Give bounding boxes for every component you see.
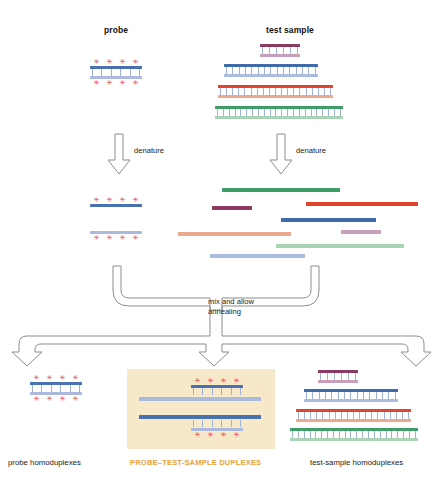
- denature-label-left: denature: [134, 146, 164, 156]
- label-marker-icon: ✳: [195, 378, 201, 384]
- label-marker-icon: ✳: [195, 432, 201, 438]
- base-pair-rungs: [298, 412, 409, 419]
- probe-duplex: ✳✳✳✳✳✳✳✳: [90, 59, 142, 87]
- label-marker-icon: ✳: [120, 235, 126, 241]
- label-marker-icon: ✳: [107, 80, 113, 86]
- label-marker-icon: ✳: [60, 375, 66, 381]
- label-marker-icon: ✳: [133, 80, 139, 86]
- probe-column-heading: probe: [76, 25, 156, 35]
- label-marker-icon: ✳: [47, 375, 53, 381]
- label-marker-icon: ✳: [107, 235, 113, 241]
- label-marker-icon: ✳: [47, 396, 53, 402]
- test-sample-column-heading: test sample: [235, 25, 345, 35]
- mix-label-line1: mix and allow: [208, 297, 254, 306]
- blue-bot-single: [210, 254, 305, 258]
- base-pair-rungs: [193, 388, 241, 395]
- label-marker-icon: ✳: [73, 375, 79, 381]
- bottom-strand: [260, 54, 300, 57]
- single-strand: [90, 204, 142, 207]
- label-marker-icon: ✳: [94, 197, 100, 203]
- bottom-strand: [290, 438, 418, 441]
- red-top-single: [306, 202, 418, 206]
- label-marker-icon: ✳: [120, 59, 126, 65]
- label-marker-icon: ✳: [208, 432, 214, 438]
- label-marker-row: ✳✳✳✳: [30, 396, 82, 402]
- base-pair-rungs: [217, 109, 341, 116]
- denature-arrow-left: [106, 133, 132, 176]
- label-marker-icon: ✳: [133, 235, 139, 241]
- purple-homoduplex: [318, 370, 358, 384]
- hetero-duplex-upper: ✳✳✳✳: [139, 378, 261, 402]
- denature-label-right: denature: [296, 146, 326, 156]
- test-sample-strand: [139, 397, 261, 401]
- bottom-strand: [318, 380, 358, 383]
- label-marker-icon: ✳: [234, 432, 240, 438]
- mix-label-line2: annealing: [208, 307, 241, 316]
- red-duplex: [218, 85, 333, 99]
- probe-bottom-single-strand: ✳✳✳✳: [90, 231, 142, 242]
- hetero-duplex-lower: ✳✳✳✳: [139, 415, 261, 441]
- label-marker-icon: ✳: [34, 375, 40, 381]
- label-marker-icon: ✳: [221, 432, 227, 438]
- base-pair-rungs: [262, 47, 298, 54]
- label-marker-row: ✳✳✳✳: [90, 197, 142, 203]
- label-marker-icon: ✳: [94, 235, 100, 241]
- probe-test-sample-duplexes-label: PROBE–TEST-SAMPLE DUPLEXES: [130, 458, 261, 467]
- label-marker-row: ✳✳✳✳: [191, 378, 243, 384]
- label-marker-icon: ✳: [208, 378, 214, 384]
- base-pair-rungs: [220, 88, 331, 95]
- label-marker-row: ✳✳✳✳: [30, 375, 82, 381]
- green-duplex: [215, 106, 343, 120]
- label-marker-icon: ✳: [94, 80, 100, 86]
- bottom-strand: [224, 74, 318, 77]
- green-homoduplex: [290, 428, 418, 442]
- red-bot-single: [178, 232, 291, 236]
- probe-top-single-strand: ✳✳✳✳: [90, 197, 142, 207]
- base-pair-rungs: [92, 69, 140, 76]
- base-pair-rungs: [193, 420, 241, 427]
- bottom-strand: [296, 419, 411, 422]
- probe-homoduplex: ✳✳✳✳✳✳✳✳: [30, 375, 82, 403]
- label-marker-row: ✳✳✳✳: [90, 59, 142, 65]
- mix-and-anneal-label: mix and allow annealing: [208, 297, 254, 318]
- label-marker-row: ✳✳✳✳: [191, 432, 243, 438]
- label-marker-icon: ✳: [133, 197, 139, 203]
- blue-duplex: [224, 64, 318, 78]
- purple-duplex: [260, 44, 300, 58]
- label-marker-icon: ✳: [120, 197, 126, 203]
- purple-top-single: [212, 206, 252, 210]
- base-pair-rungs: [306, 392, 396, 399]
- label-marker-icon: ✳: [234, 378, 240, 384]
- label-marker-icon: ✳: [34, 396, 40, 402]
- blue-homoduplex: [304, 389, 398, 403]
- red-homoduplex: [296, 409, 411, 423]
- label-marker-icon: ✳: [73, 396, 79, 402]
- label-marker-row: ✳✳✳✳: [90, 235, 142, 241]
- probe-homoduplexes-label: probe homoduplexes: [8, 458, 81, 467]
- denature-arrow-right: [268, 133, 294, 176]
- purple-bot-single: [341, 230, 381, 234]
- base-pair-rungs: [226, 67, 316, 74]
- label-marker-icon: ✳: [133, 59, 139, 65]
- label-marker-icon: ✳: [94, 59, 100, 65]
- green-bot-single: [276, 244, 404, 248]
- label-marker-icon: ✳: [107, 59, 113, 65]
- bottom-strand: [304, 399, 398, 402]
- test-sample-homoduplexes-label: test-sample homoduplexes: [310, 458, 403, 467]
- label-marker-icon: ✳: [221, 378, 227, 384]
- label-marker-row: ✳✳✳✳: [90, 80, 142, 86]
- bottom-strand: [218, 95, 333, 98]
- base-pair-rungs: [292, 431, 416, 438]
- test-sample-strand: [139, 415, 261, 419]
- blue-top-single: [281, 218, 376, 222]
- label-marker-icon: ✳: [107, 197, 113, 203]
- diagram-canvas: probe test sample ✳✳✳✳✳✳✳✳ denature dena…: [0, 0, 443, 490]
- green-top-single: [222, 188, 340, 192]
- label-marker-icon: ✳: [60, 396, 66, 402]
- base-pair-rungs: [32, 385, 80, 392]
- label-marker-icon: ✳: [120, 80, 126, 86]
- base-pair-rungs: [320, 373, 356, 380]
- bottom-strand: [215, 116, 343, 119]
